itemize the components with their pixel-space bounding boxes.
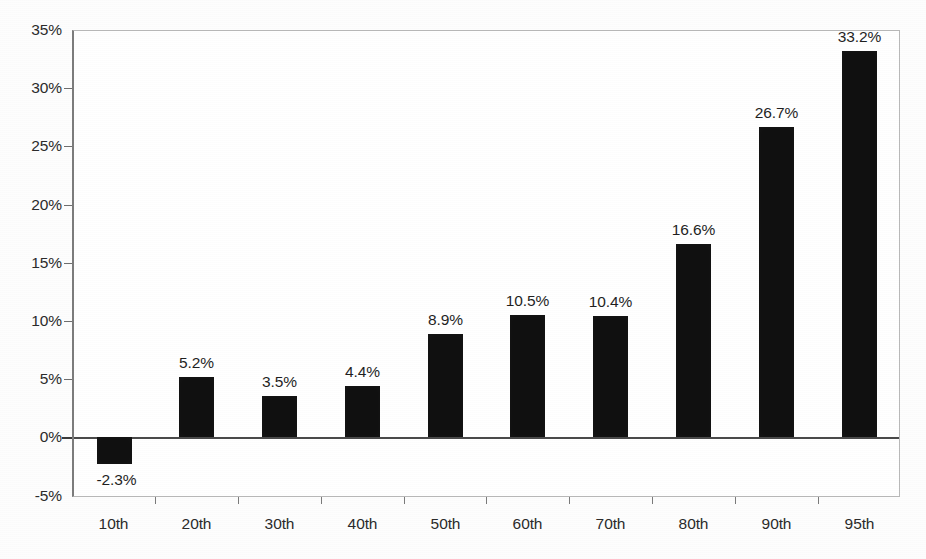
x-tick-label-60th: 60th [486, 516, 569, 532]
x-tick-mark-6 [569, 497, 570, 504]
x-tick-mark-4 [404, 497, 405, 504]
bar-value-label-50th: 8.9% [398, 312, 493, 328]
y-tick-label-25: 25% [0, 138, 62, 154]
x-tick-mark-5 [486, 497, 487, 504]
x-tick-mark-1 [155, 497, 156, 504]
bar-value-label-80th: 16.6% [646, 222, 741, 238]
bar-value-label-95th: 33.2% [812, 29, 907, 45]
y-tick-label-neg5: -5% [0, 488, 62, 504]
y-tick-label-30: 30% [0, 80, 62, 96]
bar-10th [97, 437, 132, 464]
bar-95th [842, 51, 877, 437]
x-tick-label-30th: 30th [238, 516, 321, 532]
bar-40th [345, 386, 380, 437]
bar-30th [262, 396, 297, 437]
bar-80th [676, 244, 711, 437]
x-tick-label-95th: 95th [818, 516, 901, 532]
x-tick-mark-7 [652, 497, 653, 504]
bar-90th [759, 127, 794, 437]
bar-60th [510, 315, 545, 437]
bar-value-label-60th: 10.5% [480, 293, 575, 309]
y-tick-label-15: 15% [0, 255, 62, 271]
x-tick-label-90th: 90th [735, 516, 818, 532]
bar-value-label-10th: -2.3% [69, 472, 164, 488]
bar-value-label-70th: 10.4% [563, 294, 658, 310]
bar-value-label-40th: 4.4% [315, 364, 410, 380]
y-tick-label-10: 10% [0, 313, 62, 329]
x-tick-mark-9 [818, 497, 819, 504]
bar-50th [428, 334, 463, 437]
bar-70th [593, 316, 628, 437]
bar-value-label-30th: 3.5% [232, 374, 327, 390]
x-tick-label-50th: 50th [404, 516, 487, 532]
y-axis: 35% 30% 25% 20% 15% 10% 5% 0% -5% [0, 0, 62, 559]
x-tick-mark-8 [735, 497, 736, 504]
bar-chart: 35% 30% 25% 20% 15% 10% 5% 0% -5% -2.3% … [0, 0, 926, 559]
bar-value-label-20th: 5.2% [149, 355, 244, 371]
x-tick-mark-3 [321, 497, 322, 504]
x-tick-label-10th: 10th [72, 516, 155, 532]
x-tick-label-40th: 40th [321, 516, 404, 532]
y-tick-label-5: 5% [0, 371, 62, 387]
bar-20th [179, 377, 214, 437]
y-tick-label-20: 20% [0, 197, 62, 213]
bars-layer: -2.3% 5.2% 3.5% 4.4% 8.9% 10.5% 10.4% 16… [74, 31, 899, 496]
x-tick-mark-2 [238, 497, 239, 504]
y-tick-label-0: 0% [0, 429, 62, 445]
bar-value-label-90th: 26.7% [729, 105, 824, 121]
x-tick-label-20th: 20th [155, 516, 238, 532]
x-tick-label-70th: 70th [569, 516, 652, 532]
x-tick-label-80th: 80th [652, 516, 735, 532]
y-tick-label-35: 35% [0, 22, 62, 38]
plot-area: -2.3% 5.2% 3.5% 4.4% 8.9% 10.5% 10.4% 16… [72, 30, 900, 497]
